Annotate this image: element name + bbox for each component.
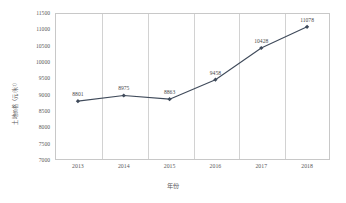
y-axis-tick-label: 10500 [36, 43, 50, 49]
x-axis-tick-label: 2013 [72, 163, 84, 169]
x-axis-tick-label: 2018 [301, 163, 313, 169]
y-axis-tick-label: 9000 [39, 92, 50, 98]
data-point-marker [167, 97, 171, 101]
x-axis-tick-label: 2017 [255, 163, 267, 169]
data-point-label: 11078 [300, 17, 314, 23]
y-axis-tick-labels: 1150011000105001000095009000850080007500… [17, 13, 53, 160]
data-point-label: 8975 [118, 85, 129, 91]
y-axis-tick-label: 9500 [39, 75, 50, 81]
y-axis-tick-label: 8500 [39, 108, 50, 114]
y-axis-tick-label: 11500 [36, 10, 50, 16]
data-point-label: 9458 [210, 70, 221, 76]
series-markers [76, 25, 309, 104]
data-point-label: 8801 [72, 91, 83, 97]
x-axis-tick-label: 2015 [164, 163, 176, 169]
y-axis-tick-label: 11000 [36, 26, 50, 32]
x-axis-tick-label: 2016 [210, 163, 222, 169]
y-axis-tick-label: 7500 [39, 141, 50, 147]
data-point-marker [305, 25, 309, 29]
series-line [78, 27, 307, 101]
data-point-marker [76, 99, 80, 103]
data-series-layer [55, 13, 330, 160]
x-axis-tick-labels: 201320142015201620172018 [55, 163, 330, 175]
y-axis-tick-label: 10000 [36, 59, 50, 65]
data-point-label: 10428 [254, 38, 268, 44]
y-axis-tick-label: 8000 [39, 124, 50, 130]
data-point-marker [122, 93, 126, 97]
land-price-line-chart: 土地价格（元/米²） 11500110001050010000950090008… [0, 0, 346, 203]
x-axis-title: 年份 [0, 181, 346, 190]
y-axis-tick-label: 7000 [39, 157, 50, 163]
data-point-label: 8863 [164, 89, 175, 95]
x-axis-tick-label: 2014 [118, 163, 130, 169]
